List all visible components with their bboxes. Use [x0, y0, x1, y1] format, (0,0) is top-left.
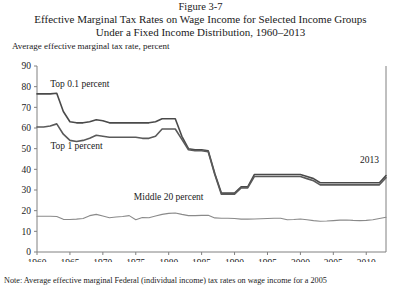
x-tick-label: 2010 [357, 258, 376, 262]
y-tick-label: 70 [22, 103, 32, 113]
y-tick-label: 0 [26, 247, 31, 257]
y-axis-caption: Average effective marginal tax rate, per… [12, 41, 401, 52]
annotation-2013: 2013 [360, 155, 379, 165]
line-chart-svg: 0102030405060708090196019651970197519801… [0, 52, 401, 262]
annotation-top-1-percent: Top 1 percent [50, 141, 102, 151]
figure-note: Note: Average effective marginal Federal… [4, 276, 400, 286]
y-tick-label: 90 [22, 61, 32, 71]
y-tick-label: 80 [22, 82, 32, 92]
annotation-top-0-1-percent: Top 0.1 percent [50, 79, 110, 89]
x-tick-label: 1960 [28, 258, 47, 262]
y-tick-label: 60 [22, 123, 32, 133]
figure-number: Figure 3-7 [0, 1, 401, 13]
y-tick-label: 30 [22, 185, 32, 195]
y-tick-label: 50 [22, 144, 32, 154]
x-tick-label: 2005 [324, 258, 343, 262]
x-tick-label: 1975 [126, 258, 145, 262]
series-line-middle-20-percent [37, 213, 386, 221]
series-line-top-1-percent [37, 124, 386, 194]
x-tick-label: 1980 [159, 258, 178, 262]
x-tick-label: 1990 [225, 258, 244, 262]
x-tick-label: 1985 [192, 258, 211, 262]
y-tick-label: 20 [22, 206, 32, 216]
chart-plot-area: 0102030405060708090196019651970197519801… [0, 52, 401, 262]
y-tick-label: 10 [22, 227, 32, 237]
x-tick-label: 2000 [291, 258, 310, 262]
x-tick-label: 1995 [258, 258, 277, 262]
annotation-middle-20-percent: Middle 20 percent [134, 192, 204, 202]
x-tick-label: 1970 [93, 258, 112, 262]
y-tick-label: 40 [22, 165, 32, 175]
figure-title-line1: Effective Marginal Tax Rates on Wage Inc… [0, 13, 401, 26]
figure-title-line2: Under a Fixed Income Distribution, 1960–… [0, 26, 401, 39]
x-tick-label: 1965 [60, 258, 79, 262]
